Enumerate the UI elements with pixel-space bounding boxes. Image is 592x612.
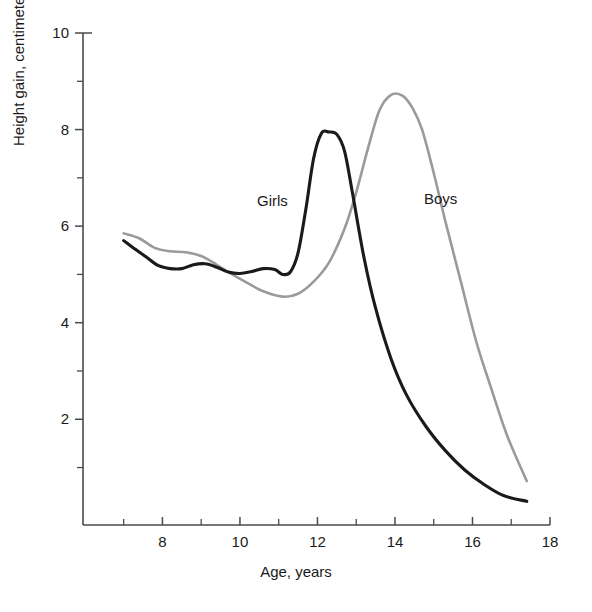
x-tick-label: 18 [530, 534, 570, 549]
x-tick-label: 10 [220, 534, 260, 549]
x-tick-label: 12 [297, 534, 337, 549]
growth-velocity-chart: 24681081012141618 Height gain, centimete… [0, 0, 592, 612]
chart-plot-area [0, 0, 592, 612]
y-tick-label: 10 [29, 25, 69, 40]
x-axis-title: Age, years [0, 563, 592, 580]
y-tick-label: 6 [29, 218, 69, 233]
series-line-boys [124, 93, 527, 481]
y-tick-label: 4 [29, 315, 69, 330]
series-label-girls: Girls [257, 192, 288, 209]
series-line-girls [124, 131, 527, 501]
y-tick-label: 8 [29, 122, 69, 137]
x-tick-label: 8 [142, 534, 182, 549]
y-tick-label: 2 [29, 411, 69, 426]
x-tick-label: 16 [452, 534, 492, 549]
y-axis-title: Height gain, centimeters per year [10, 0, 27, 146]
x-tick-label: 14 [375, 534, 415, 549]
axis-ticks [75, 33, 550, 525]
series-label-boys: Boys [424, 190, 457, 207]
